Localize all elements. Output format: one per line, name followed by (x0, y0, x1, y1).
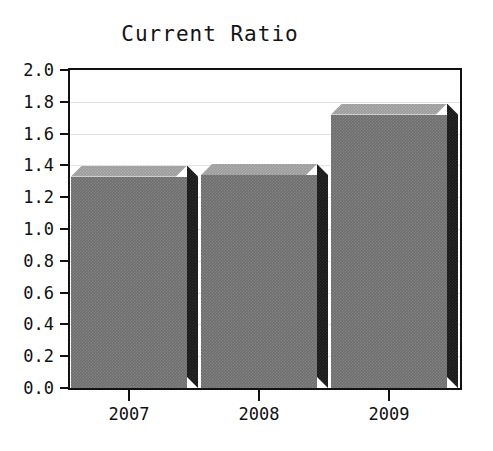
x-tick-mark (258, 390, 260, 401)
bar-front-face (331, 115, 447, 388)
bar-top-face (71, 166, 187, 177)
plot-area (68, 68, 462, 390)
x-tick-mark (388, 390, 390, 401)
y-tick-label: 0.4 (23, 314, 54, 334)
x-tick-label-2007: 2007 (109, 404, 150, 424)
bar-side-face (317, 164, 328, 388)
bar-front-face (201, 175, 317, 388)
y-tick-label: 1.8 (23, 92, 54, 112)
y-tick-label: 1.0 (23, 219, 54, 239)
bar-top-face (201, 164, 317, 175)
x-tick-label-2008: 2008 (239, 404, 280, 424)
bar-top-face (331, 104, 447, 115)
y-tick-label: 0.0 (23, 378, 54, 398)
y-tick-label: 1.6 (23, 124, 54, 144)
bar-2007 (71, 166, 187, 388)
chart-container: Current Ratio 0.00.20.40.60.81.01.21.41.… (0, 0, 493, 451)
y-tick-label: 1.2 (23, 187, 54, 207)
plot-inner (70, 70, 460, 388)
x-tick-mark (128, 390, 130, 401)
bar-2008 (201, 164, 317, 388)
bar-2009 (331, 104, 447, 388)
bar-front-face (71, 177, 187, 388)
y-tick-label: 0.8 (23, 251, 54, 271)
y-tick-label: 0.6 (23, 283, 54, 303)
y-tick-label: 1.4 (23, 155, 54, 175)
y-tick-label: 0.2 (23, 346, 54, 366)
bar-side-face (447, 104, 458, 388)
x-tick-label-2009: 2009 (369, 404, 410, 424)
y-tick-label: 2.0 (23, 60, 54, 80)
y-axis: 0.00.20.40.60.81.01.21.41.61.82.0 (0, 0, 68, 451)
bar-side-face (187, 166, 198, 388)
